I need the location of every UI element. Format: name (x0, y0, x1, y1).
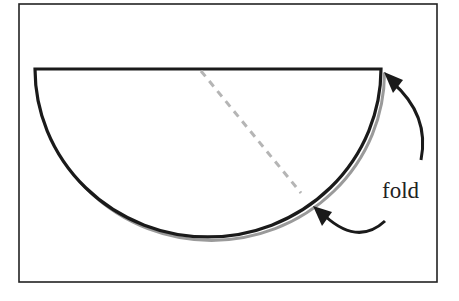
lower-arrow-icon (325, 216, 385, 232)
upper-arrow-icon (392, 82, 423, 160)
fold-label: fold (382, 178, 420, 203)
fold-diagram: fold (0, 0, 459, 301)
lower-arrowhead-icon (313, 206, 332, 226)
